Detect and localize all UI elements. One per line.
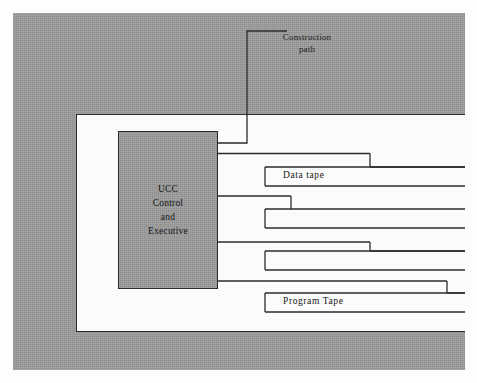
ucc-block-label: UCC Control and Executive — [148, 182, 188, 238]
ucc-label-line-2: Control — [148, 196, 188, 210]
ucc-label-line-3: and — [148, 210, 188, 224]
construction-path-leader — [218, 31, 287, 143]
ucc-label-line-4: Executive — [148, 224, 188, 238]
diagram-canvas: UCC Control and Executive Construction p… — [0, 0, 477, 383]
program-tape-label: Program Tape — [283, 296, 343, 306]
wiring-overlay — [0, 0, 477, 383]
ucc-label-line-1: UCC — [148, 182, 188, 196]
data-tape-label: Data tape — [283, 170, 325, 180]
